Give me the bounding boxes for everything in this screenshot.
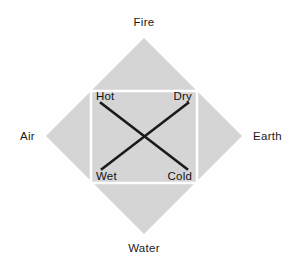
- quality-label-wet: Wet: [96, 170, 117, 182]
- quality-label-hot: Hot: [96, 90, 115, 102]
- element-label-water: Water: [128, 242, 160, 254]
- quality-label-dry: Dry: [174, 90, 193, 102]
- element-label-fire: Fire: [133, 16, 154, 28]
- four-elements-diagram: Fire Earth Water Air Hot Dry Wet Cold: [0, 0, 289, 262]
- diagram-canvas: Fire Earth Water Air Hot Dry Wet Cold: [0, 0, 289, 262]
- element-label-air: Air: [20, 130, 35, 142]
- quality-label-cold: Cold: [168, 170, 192, 182]
- element-label-earth: Earth: [253, 130, 282, 142]
